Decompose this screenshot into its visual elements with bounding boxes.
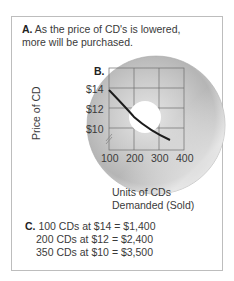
section-c-line3: 350 CDs at $10 = $3,500	[36, 246, 153, 259]
x-tick-200: 200	[126, 152, 144, 165]
x-tick-100: 100	[101, 152, 119, 165]
x-axis-label-line2: Demanded (Sold)	[112, 199, 194, 212]
x-tick-400: 400	[176, 152, 194, 165]
section-c-label: C.	[25, 220, 36, 232]
section-c-line1: C. 100 CDs at $14 = $1,400	[25, 220, 155, 233]
y-axis-label: Price of CD	[30, 86, 43, 140]
x-axis-label-line1: Units of CDs	[112, 186, 171, 199]
y-tick-10: $10	[86, 123, 104, 136]
y-tick-12: $12	[86, 103, 104, 116]
y-tick-14: $14	[86, 83, 104, 96]
section-b-label: B.	[94, 65, 105, 78]
section-c-line2: 200 CDs at $12 = $2,400	[36, 233, 153, 246]
x-tick-300: 300	[151, 152, 169, 165]
